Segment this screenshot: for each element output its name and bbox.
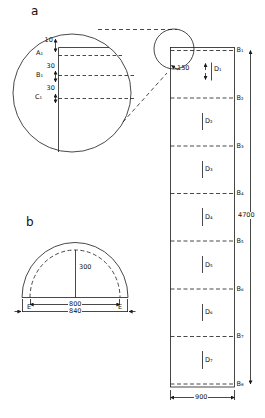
section-b6-label: B₆ [237, 286, 244, 293]
section-b4-label: B₄ [237, 190, 244, 197]
section-b8-label: B₈ [237, 381, 244, 388]
dome-inner-arc [30, 250, 120, 297]
section-b2-label: B₂ [237, 95, 244, 102]
line-a1-label: A₁ [36, 50, 43, 57]
specimen-d5-label: D₅ [205, 262, 213, 269]
dim-840-label: 840 [68, 308, 82, 315]
section-b5-label: B₅ [237, 238, 244, 245]
dim-900-label: 900 [194, 394, 208, 401]
specimen-d4-label: D₄ [205, 214, 213, 221]
magnifier-detail-lines [59, 48, 137, 153]
section-b3-label: B₃ [237, 143, 244, 150]
panel-b-label: b [26, 216, 34, 228]
edge-e-left-label: E [27, 304, 31, 311]
specimen-d6-label: D₆ [205, 309, 213, 316]
section-b1-label: B₁ [237, 47, 244, 54]
drawing-linework [0, 0, 265, 418]
line-c1-label: C₁ [35, 94, 42, 101]
panel-a-label: a [31, 5, 38, 17]
specimen-d2-label: D₂ [205, 118, 213, 125]
section-b7-label: B₇ [237, 333, 244, 340]
dim-150-label: 150 [177, 65, 189, 72]
specimen-d7-label: D₇ [205, 357, 213, 364]
specimen-d1-label: D₁ [214, 66, 222, 73]
gap-ab-label: 30 [47, 63, 55, 70]
technical-drawing-figure: a b 10 A₁ 30 B₁ 30 C₁ 150 D₁ D₂ D₃ D₄ D₅… [0, 0, 265, 418]
magnifier-circle [13, 34, 131, 152]
callout-circle [154, 29, 194, 69]
edge-e-right-label: E [118, 304, 122, 311]
dim-10-label: 10 [45, 37, 53, 44]
dim-4700-label: 4700 [237, 212, 256, 219]
gap-bc-label: 30 [47, 85, 55, 92]
dim-300-label: 300 [79, 264, 91, 271]
specimen-d3-label: D₃ [205, 166, 213, 173]
line-b1-label: B₁ [36, 72, 43, 79]
